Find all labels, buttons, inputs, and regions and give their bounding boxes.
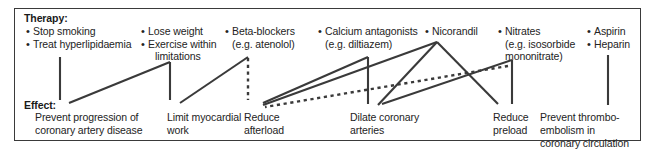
- effect-line: Prevent thrombo-: [540, 111, 620, 123]
- effect-line: Prevent progression of: [35, 111, 138, 123]
- effect-line: Reduce: [244, 111, 280, 123]
- effect-reduce-preload: Reduce preload: [493, 111, 529, 137]
- therapy-item-continuation: (e.g. diltiazem): [318, 38, 418, 51]
- effect-line: embolism in: [540, 124, 595, 136]
- bullet-icon: •: [587, 38, 594, 51]
- effect-line: preload: [493, 124, 527, 136]
- therapy-item-label: Stop smoking: [33, 25, 95, 37]
- effect-line: coronary artery disease: [35, 124, 142, 136]
- therapy-item-label: Exercise within: [148, 38, 217, 50]
- therapy-item-continuation: (e.g. atenolol): [225, 38, 295, 51]
- therapy-group-lifestyle-2: •Lose weight •Exercise within limitation…: [141, 25, 217, 63]
- therapy-item-label: Nitrates: [505, 25, 540, 37]
- therapy-item-label: Lose weight: [148, 25, 203, 37]
- therapy-heading: Therapy:: [24, 12, 68, 24]
- effect-line: work: [167, 124, 189, 136]
- therapy-item-label: Nicorandil: [432, 25, 478, 37]
- effect-line: arteries: [350, 124, 384, 136]
- therapy-group-lifestyle-1: •Stop smoking •Treat hyperlipidaemia: [26, 25, 131, 50]
- therapy-item-label: Calcium antagonists: [325, 25, 418, 37]
- bullet-icon: •: [141, 25, 148, 38]
- therapy-item-continuation: (e.g. isosorbide: [498, 38, 575, 51]
- therapy-item-label: Aspirin: [594, 25, 625, 37]
- effect-reduce-afterload: Reduce afterload: [244, 111, 284, 137]
- effect-line: afterload: [244, 124, 284, 136]
- effect-line: Dilate coronary: [350, 111, 419, 123]
- effect-line: Limit myocardial: [167, 111, 241, 123]
- therapy-item-label: Heparin: [594, 38, 630, 50]
- effect-line: coronary circulation: [540, 137, 629, 149]
- effect-heading: Effect:: [24, 99, 56, 111]
- bullet-icon: •: [498, 25, 505, 38]
- angina-therapy-effect-diagram: Therapy: •Stop smoking •Treat hyperlipid…: [0, 0, 655, 153]
- therapy-item-continuation: mononitrate): [498, 50, 575, 63]
- therapy-item-continuation: limitations: [141, 50, 217, 63]
- therapy-group-beta-blockers: •Beta-blockers (e.g. atenolol): [225, 25, 295, 50]
- bullet-icon: •: [318, 25, 325, 38]
- therapy-group-nitrates: •Nitrates (e.g. isosorbide mononitrate): [498, 25, 575, 63]
- effect-line: Reduce: [493, 111, 529, 123]
- effect-prevent-thromboembolism: Prevent thrombo- embolism in coronary ci…: [540, 111, 629, 149]
- effect-prevent-progression: Prevent progression of coronary artery d…: [35, 111, 142, 137]
- bullet-icon: •: [26, 25, 33, 38]
- bullet-icon: •: [141, 38, 148, 51]
- therapy-item-label: Beta-blockers: [232, 25, 295, 37]
- bullet-icon: •: [425, 25, 432, 38]
- therapy-group-calcium-antagonists: •Calcium antagonists (e.g. diltiazem): [318, 25, 418, 50]
- bullet-icon: •: [587, 25, 594, 38]
- therapy-group-nicorandil: •Nicorandil: [425, 25, 478, 38]
- effect-limit-myocardial-work: Limit myocardial work: [167, 111, 241, 137]
- bullet-icon: •: [225, 25, 232, 38]
- therapy-group-antiplatelet: •Aspirin •Heparin: [587, 25, 630, 50]
- effect-dilate-coronary-arteries: Dilate coronary arteries: [350, 111, 419, 137]
- therapy-item-label: Treat hyperlipidaemia: [33, 38, 131, 50]
- bullet-icon: •: [26, 38, 33, 51]
